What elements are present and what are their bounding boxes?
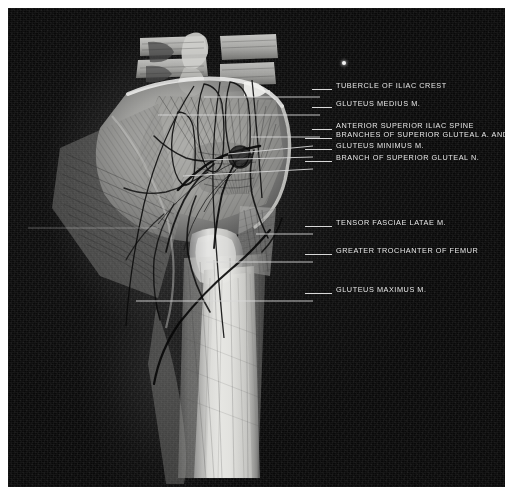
leader-dash-anterior-superior-iliac-spine bbox=[312, 129, 332, 130]
label-tensor-fasciae-latae: TENSOR FASCIAE LATAE M. bbox=[336, 218, 446, 227]
leader-dash-branch-superior-gluteal-n bbox=[305, 161, 332, 162]
label-gluteus-medius: GLUTEUS MEDIUS M. bbox=[336, 99, 420, 108]
label-branch-superior-gluteal-n: BRANCH OF SUPERIOR GLUTEAL N. bbox=[336, 153, 479, 162]
leader-dash-greater-trochanter-of-femur bbox=[305, 254, 332, 255]
leader-dash-tubercle-of-iliac-crest bbox=[312, 89, 332, 90]
leader-dash-gluteus-maximus bbox=[305, 293, 332, 294]
leader-dash-gluteus-medius bbox=[312, 107, 332, 108]
radiograph-plate: TUBERCLE OF ILIAC CRESTGLUTEUS MEDIUS M.… bbox=[8, 8, 505, 487]
leader-dash-branches-superior-gluteal-a-and-v bbox=[305, 138, 332, 139]
label-tubercle-of-iliac-crest: TUBERCLE OF ILIAC CREST bbox=[336, 81, 447, 90]
leader-dash-tensor-fasciae-latae bbox=[305, 226, 332, 227]
label-greater-trochanter-of-femur: GREATER TROCHANTER OF FEMUR bbox=[336, 246, 478, 255]
film-speck-artifact bbox=[342, 61, 346, 65]
label-anterior-superior-iliac-spine: ANTERIOR SUPERIOR ILIAC SPINE bbox=[336, 121, 474, 130]
label-branches-superior-gluteal-a-and-v: BRANCHES OF SUPERIOR GLUTEAL A. AND V. bbox=[336, 130, 505, 139]
label-gluteus-minimus: GLUTEUS MINIMUS M. bbox=[336, 141, 424, 150]
label-gluteus-maximus: GLUTEUS MAXIMUS M. bbox=[336, 285, 427, 294]
leader-dash-gluteus-minimus bbox=[305, 149, 332, 150]
